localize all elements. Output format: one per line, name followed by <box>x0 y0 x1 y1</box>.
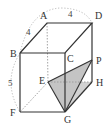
dimension-label-ad: 4 <box>68 9 73 19</box>
vertex-label-a: A <box>40 10 48 21</box>
vertex-label-f: F <box>10 107 16 118</box>
vertex-label-g: G <box>64 114 71 125</box>
diagram-canvas: A D B C P E H F G 4 4 5 <box>0 0 109 127</box>
dimension-label-ab: 4 <box>26 27 31 37</box>
vertex-label-e: E <box>39 75 45 86</box>
vertex-label-h: H <box>96 77 103 88</box>
vertex-label-p: P <box>96 55 102 66</box>
vertex-label-b: B <box>10 48 17 59</box>
vertex-label-c: C <box>67 53 74 64</box>
dimension-label-bf: 5 <box>8 78 13 88</box>
dimension-arc-ab-ad <box>20 8 92 53</box>
vertex-label-d: D <box>95 10 102 21</box>
cuboid-diagram: A D B C P E H F G 4 4 5 <box>0 0 109 127</box>
